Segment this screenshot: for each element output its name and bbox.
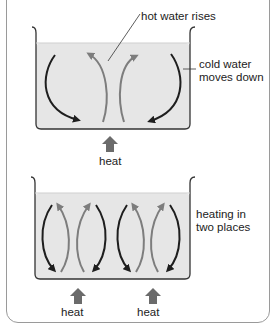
heat-label-bottom-right: heat — [137, 306, 159, 319]
heating-label-line1: heating in — [196, 208, 246, 221]
top-water — [36, 43, 190, 129]
heat-arrow-right-icon — [145, 288, 161, 304]
top-beaker — [32, 14, 196, 152]
heat-arrow-icon — [102, 136, 118, 152]
convection-diagram — [0, 0, 274, 328]
heat-label-bottom-left: heat — [61, 306, 83, 319]
heating-label-line2: two places — [196, 221, 250, 234]
cold-water-label-line1: cold water — [199, 58, 251, 71]
bottom-beaker — [31, 177, 195, 304]
cold-water-label-line2: moves down — [199, 71, 264, 84]
heat-arrow-left-icon — [70, 288, 86, 304]
heat-label-top: heat — [99, 155, 121, 168]
hot-water-rises-label: hot water rises — [141, 10, 216, 23]
